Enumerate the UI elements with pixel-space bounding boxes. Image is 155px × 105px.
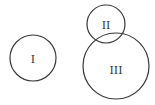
circle-diagram: I II III (0, 0, 155, 105)
circle-iii-label: III (109, 64, 122, 77)
circle-iii: III (83, 33, 149, 99)
circle-i: I (10, 35, 56, 81)
circle-ii: II (87, 5, 125, 43)
circle-ii-label: II (102, 19, 111, 32)
circle-i-label: I (31, 53, 35, 66)
